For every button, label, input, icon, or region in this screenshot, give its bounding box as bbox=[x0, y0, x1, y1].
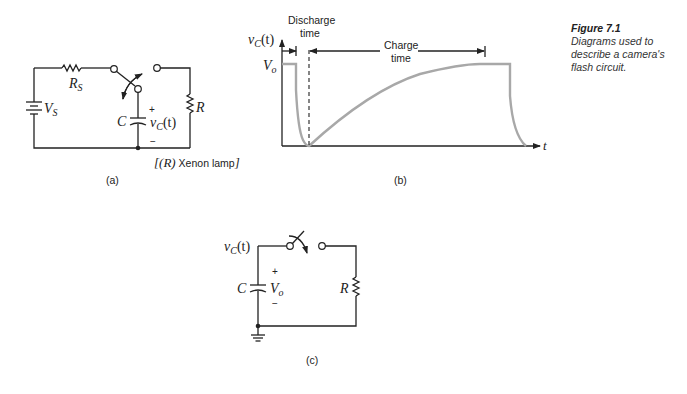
capacitor-icon bbox=[250, 285, 266, 292]
voltage-label: vC(t) bbox=[150, 115, 176, 132]
minus-sign: − bbox=[150, 136, 156, 147]
capacitor-icon bbox=[130, 118, 146, 125]
load-resistor-label: R bbox=[339, 281, 349, 296]
load-resistor-icon bbox=[187, 94, 193, 113]
node-label: vC(t) bbox=[224, 239, 250, 256]
plus-sign: + bbox=[149, 104, 155, 115]
load-resistor-label: R bbox=[195, 100, 205, 115]
chart-b: Discharge time Charge time vC(t) Vo t (b… bbox=[248, 14, 547, 186]
switch-contact-icon bbox=[135, 86, 142, 93]
ground-icon bbox=[251, 326, 265, 341]
switch-blade bbox=[116, 71, 135, 86]
capacitor-label: C bbox=[237, 281, 247, 296]
minus-sign: − bbox=[272, 298, 278, 309]
discharge-label-2: time bbox=[300, 27, 320, 39]
panel-c-label: (c) bbox=[306, 354, 318, 366]
circuit-a: VS RS C + vC(t) − R [(R) Xenon lamp] (a) bbox=[26, 65, 240, 186]
switch-contact-icon bbox=[154, 65, 161, 72]
switch-contact-icon bbox=[319, 243, 326, 250]
circuit-c: vC(t) C + Vo − R (c) bbox=[224, 231, 359, 366]
charge-label-2: time bbox=[391, 52, 411, 64]
caption-text: Diagrams used to describe a camera's fla… bbox=[571, 35, 665, 73]
xenon-lamp-note: [(R) Xenon lamp] bbox=[154, 155, 240, 170]
charge-label: Charge bbox=[384, 39, 419, 51]
series-resistor-icon bbox=[62, 65, 81, 71]
y-axis-label: vC(t) bbox=[248, 32, 274, 49]
voltage-label: Vo bbox=[270, 281, 284, 298]
source-label: VS bbox=[44, 101, 58, 118]
panel-a-label: (a) bbox=[106, 174, 119, 186]
voltage-curve bbox=[282, 64, 526, 146]
junction-dot bbox=[136, 146, 141, 151]
figure-caption: Figure 7.1 Diagrams used to describe a c… bbox=[571, 22, 686, 74]
plus-sign: + bbox=[272, 266, 278, 277]
figure-number: Figure 7.1 bbox=[571, 22, 686, 35]
x-axis-label: t bbox=[543, 138, 547, 153]
discharge-label: Discharge bbox=[288, 14, 335, 26]
panel-b-label: (b) bbox=[394, 174, 407, 186]
vo-level-label: Vo bbox=[263, 58, 277, 75]
series-resistor-label: RS bbox=[68, 76, 83, 93]
capacitor-label: C bbox=[117, 114, 127, 129]
battery-icon bbox=[26, 102, 42, 118]
load-resistor-icon bbox=[353, 277, 359, 296]
